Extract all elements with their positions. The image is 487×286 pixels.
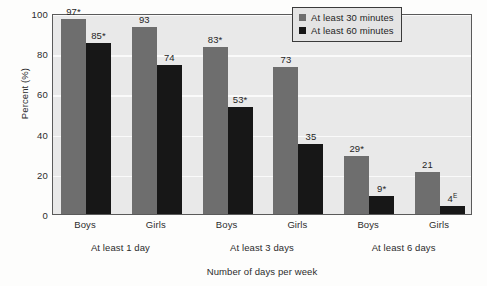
y-axis-tick-labels: 020406080100 (18, 14, 48, 215)
bar-value-label: 73 (281, 54, 292, 65)
bar-value-label: 74 (164, 52, 175, 63)
bar-value-label: 93 (139, 14, 150, 25)
bar: 35 (298, 144, 323, 214)
x-category-label: Girls (287, 219, 307, 230)
legend-item: At least 60 minutes (299, 24, 394, 36)
bar: 29* (344, 156, 369, 214)
x-category-label: Girls (146, 219, 166, 230)
bar: 4E (440, 206, 465, 214)
y-tick-label: 80 (18, 49, 48, 60)
x-axis-title: Number of days per week (52, 266, 472, 277)
bar-value-label: 53* (233, 94, 248, 105)
legend-label: At least 60 minutes (311, 25, 394, 36)
bar: 97* (61, 19, 86, 214)
legend-item: At least 30 minutes (299, 12, 394, 24)
y-tick-label: 20 (18, 169, 48, 180)
x-axis-category-labels: BoysGirlsBoysGirlsBoysGirls (52, 219, 472, 233)
bar-value-label: 29* (349, 143, 364, 154)
bar: 93 (132, 27, 157, 214)
bar: 73 (273, 67, 298, 214)
bar-value-label: 35 (306, 131, 317, 142)
bars-layer: 97*85*937483*53*733529*9*214E (53, 15, 471, 214)
x-category-label: Girls (429, 219, 449, 230)
x-group-label: At least 1 day (91, 242, 150, 253)
x-group-label: At least 6 days (372, 242, 436, 253)
chart-legend: At least 30 minutesAt least 60 minutes (292, 7, 402, 42)
bar-value-label: 4E (448, 193, 458, 204)
y-tick-label: 0 (18, 210, 48, 221)
bar: 85* (86, 43, 111, 214)
bar-value-label: 85* (91, 30, 106, 41)
bar-value-label: 21 (422, 159, 433, 170)
bar-chart: Percent (%) 020406080100 97*85*937483*53… (0, 0, 487, 286)
x-category-label: Boys (357, 219, 379, 230)
legend-label: At least 30 minutes (311, 12, 394, 23)
bar: 21 (415, 172, 440, 214)
x-group-label: At least 3 days (230, 242, 294, 253)
bar-value-label: 9* (377, 183, 386, 194)
bar: 74 (157, 65, 182, 214)
x-category-label: Boys (216, 219, 238, 230)
y-tick-label: 100 (18, 9, 48, 20)
legend-swatch-icon (299, 14, 306, 21)
bar-value-label: 97* (66, 6, 81, 17)
bar-value-label: 83* (208, 34, 223, 45)
y-tick-label: 60 (18, 89, 48, 100)
legend-swatch-icon (299, 27, 306, 34)
bar: 83* (203, 47, 228, 214)
bar: 53* (228, 107, 253, 214)
x-category-label: Boys (74, 219, 96, 230)
bar: 9* (369, 196, 394, 214)
y-tick-label: 40 (18, 129, 48, 140)
plot-area: 97*85*937483*53*733529*9*214E (52, 14, 472, 215)
x-axis-group-labels: At least 1 dayAt least 3 daysAt least 6 … (52, 242, 472, 256)
